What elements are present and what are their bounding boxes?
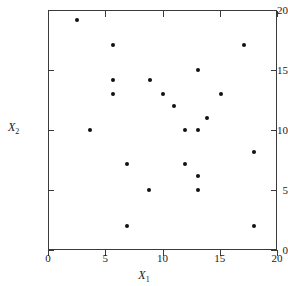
x-axis-tick-label: 20 bbox=[257, 253, 288, 264]
data-point bbox=[196, 188, 200, 192]
x-axis-title: X1 bbox=[0, 268, 288, 284]
data-point bbox=[219, 92, 223, 96]
data-point bbox=[196, 128, 200, 132]
y-axis-title: X2 bbox=[8, 120, 19, 136]
y-axis-tick-label: 5 bbox=[246, 185, 288, 196]
x-axis-tick-top bbox=[220, 11, 221, 17]
x-axis-tick-top bbox=[163, 11, 164, 17]
x-axis-tick-label: 5 bbox=[85, 253, 125, 264]
y-axis-tick-label: 15 bbox=[246, 65, 288, 76]
data-point bbox=[172, 104, 176, 108]
y-axis-tick bbox=[48, 190, 54, 191]
y-axis-tick bbox=[48, 130, 54, 131]
y-axis-tick-label: 10 bbox=[246, 125, 288, 136]
data-point bbox=[161, 92, 165, 96]
x-axis-title-subscript: 1 bbox=[146, 275, 150, 284]
y-axis-tick-label: 20 bbox=[246, 5, 288, 16]
data-point bbox=[125, 224, 129, 228]
y-axis-title-subscript: 2 bbox=[15, 127, 19, 136]
x-axis-tick-label: 15 bbox=[200, 253, 240, 264]
data-point bbox=[125, 162, 129, 166]
x-axis-title-main: X bbox=[138, 268, 145, 282]
data-point bbox=[196, 68, 200, 72]
x-axis-tick-top bbox=[48, 11, 49, 17]
data-point bbox=[148, 78, 152, 82]
data-point bbox=[252, 150, 256, 154]
data-point bbox=[111, 78, 115, 82]
y-axis-tick bbox=[48, 70, 54, 71]
x-axis-tick-label: 10 bbox=[143, 253, 183, 264]
scatter-plot-figure: 0510152005101520 X2 X1 bbox=[0, 0, 288, 286]
data-point bbox=[196, 174, 200, 178]
x-axis-tick-label: 0 bbox=[28, 253, 68, 264]
data-point bbox=[242, 43, 246, 47]
data-point bbox=[147, 188, 151, 192]
x-axis-tick-top bbox=[105, 11, 106, 17]
data-point bbox=[75, 18, 79, 22]
